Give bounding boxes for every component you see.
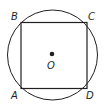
center-label-o: O [47, 60, 55, 71]
diagram-canvas: B C A D O [0, 0, 106, 111]
vertex-label-c: C [88, 11, 95, 22]
center-point [50, 52, 55, 57]
vertex-label-b: B [11, 11, 18, 22]
inscribed-square [21, 23, 87, 89]
vertex-label-a: A [10, 90, 18, 101]
vertex-label-d: D [86, 90, 94, 101]
